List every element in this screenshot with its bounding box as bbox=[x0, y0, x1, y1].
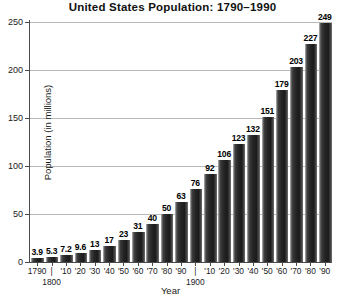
y-tick-mark bbox=[25, 166, 29, 167]
bar[interactable] bbox=[247, 135, 260, 262]
y-tick-label: 200 bbox=[0, 65, 23, 75]
bar-value-label: 40 bbox=[141, 213, 163, 223]
bar[interactable] bbox=[262, 117, 275, 262]
bar[interactable] bbox=[233, 144, 246, 262]
bar[interactable] bbox=[218, 160, 231, 262]
bar-value-label: 132 bbox=[242, 124, 264, 134]
y-tick-mark bbox=[25, 70, 29, 71]
chart-title: United States Population: 1790–1990 bbox=[0, 1, 345, 13]
y-tick-label: 50 bbox=[0, 209, 23, 219]
bar[interactable] bbox=[60, 255, 73, 262]
y-tick-mark bbox=[25, 118, 29, 119]
population-bar-chart: United States Population: 1790–1990 0501… bbox=[0, 0, 345, 303]
bar-value-label: 63 bbox=[170, 191, 192, 201]
y-tick-label: 150 bbox=[0, 113, 23, 123]
bar-value-label: 92 bbox=[199, 163, 221, 173]
bar-value-label: 203 bbox=[285, 56, 307, 66]
y-tick-label: 100 bbox=[0, 161, 23, 171]
bar-value-label: 227 bbox=[299, 33, 321, 43]
y-tick-mark bbox=[25, 262, 29, 263]
y-tick-label: 250 bbox=[0, 17, 23, 27]
bar-value-label: 123 bbox=[228, 133, 250, 143]
bar-value-label: 249 bbox=[314, 12, 336, 22]
y-tick-mark bbox=[25, 214, 29, 215]
y-tick-mark bbox=[25, 22, 29, 23]
bar[interactable] bbox=[290, 67, 303, 262]
bar[interactable] bbox=[305, 44, 318, 262]
bar-value-label: 31 bbox=[127, 221, 149, 231]
bar[interactable] bbox=[319, 23, 332, 262]
bar-value-label: 50 bbox=[156, 203, 178, 213]
bar-value-label: 106 bbox=[213, 149, 235, 159]
y-tick-label: 0 bbox=[0, 257, 23, 267]
bar-value-label: 179 bbox=[271, 79, 293, 89]
x-tick-label: '90 bbox=[313, 266, 337, 276]
bar-value-label: 76 bbox=[184, 178, 206, 188]
bar[interactable] bbox=[75, 253, 88, 262]
bar[interactable] bbox=[31, 258, 44, 262]
x-axis-label: Year bbox=[0, 285, 343, 296]
bar-value-label: 151 bbox=[256, 106, 278, 116]
bar[interactable] bbox=[46, 257, 59, 262]
